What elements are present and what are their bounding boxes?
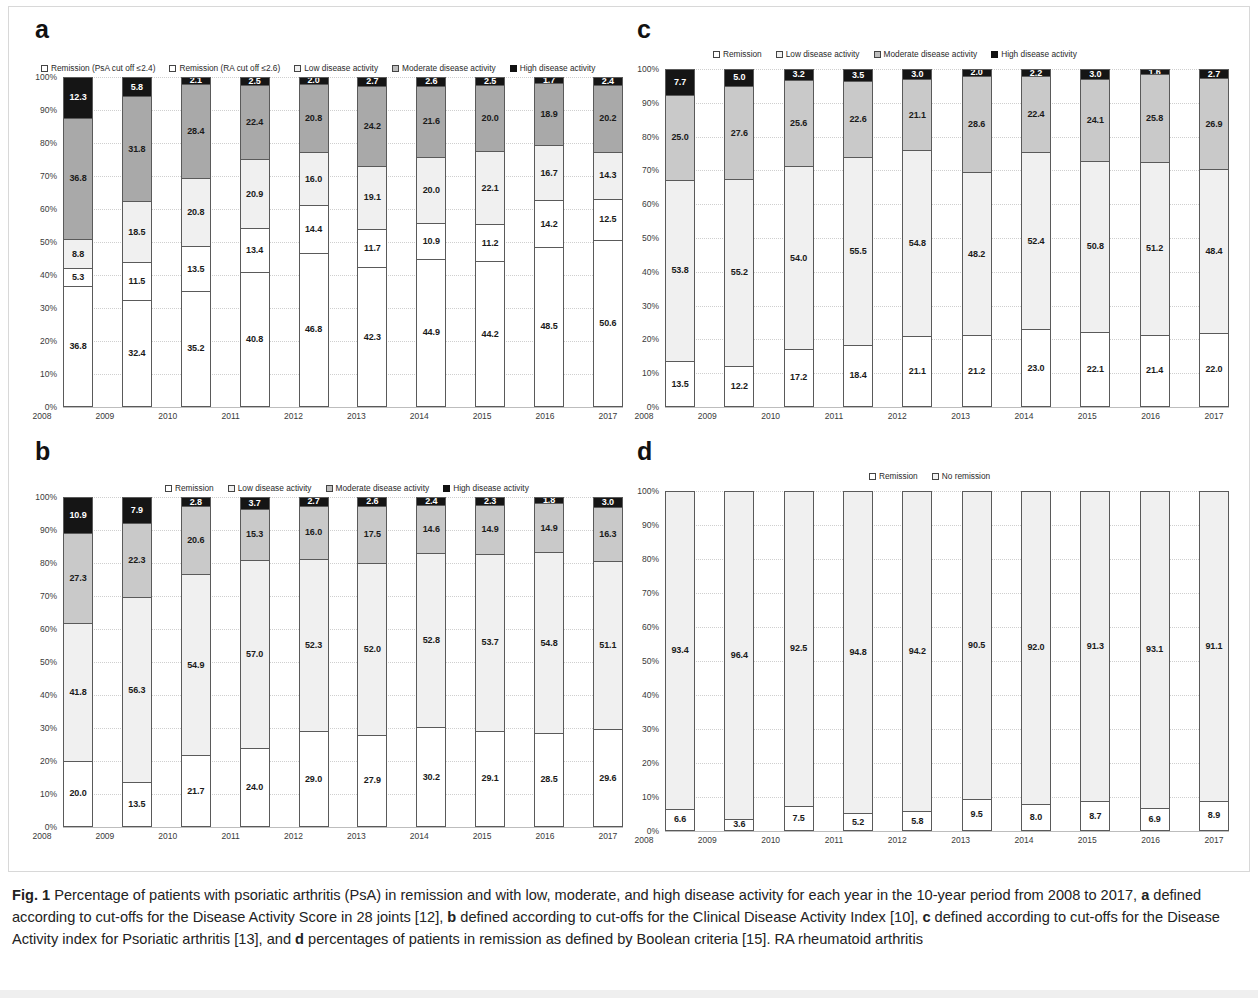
bar-segment[interactable]: 29.6 <box>594 729 622 827</box>
bar-segment[interactable]: 21.1 <box>903 336 931 407</box>
bar-segment[interactable]: 2.3 <box>476 497 504 505</box>
bar-segment[interactable]: 2.6 <box>358 497 386 506</box>
bar-segment[interactable]: 54.0 <box>785 166 813 349</box>
bar-segment[interactable]: 21.1 <box>903 79 931 150</box>
bar-segment[interactable]: 2.6 <box>417 77 445 86</box>
bar-column[interactable]: 91.18.9 <box>1199 491 1229 831</box>
bar-segment[interactable]: 44.9 <box>417 259 445 407</box>
bar-segment[interactable]: 14.9 <box>535 503 563 552</box>
bar-segment[interactable]: 29.0 <box>300 731 328 827</box>
bar-segment[interactable]: 2.7 <box>1200 69 1228 78</box>
bar-column[interactable]: 2.414.652.830.2 <box>416 497 446 827</box>
bar-segment[interactable]: 11.7 <box>358 229 386 268</box>
bar-column[interactable]: 2.420.214.312.550.6 <box>593 77 623 407</box>
bar-column[interactable]: 7.922.356.313.5 <box>122 497 152 827</box>
bar-segment[interactable]: 3.0 <box>1081 69 1109 79</box>
bar-column[interactable]: 96.43.6 <box>724 491 754 831</box>
stacked-bar[interactable]: 2.520.022.111.244.2 <box>475 77 505 407</box>
bar-segment[interactable]: 55.5 <box>844 157 872 345</box>
stacked-bar[interactable]: 2.726.948.422.0 <box>1199 69 1229 407</box>
bar-segment[interactable]: 11.5 <box>123 262 151 300</box>
stacked-bar[interactable]: 92.08.0 <box>1021 491 1051 831</box>
bar-segment[interactable]: 22.4 <box>241 85 269 159</box>
bar-segment[interactable]: 42.3 <box>358 267 386 407</box>
stacked-bar[interactable]: 2.522.420.913.440.8 <box>240 77 270 407</box>
bar-column[interactable]: 2.820.654.921.7 <box>181 497 211 827</box>
bar-segment[interactable]: 3.0 <box>594 497 622 507</box>
bar-segment[interactable]: 16.7 <box>535 145 563 200</box>
bar-segment[interactable]: 5.8 <box>123 77 151 96</box>
stacked-bar[interactable]: 93.16.9 <box>1140 491 1170 831</box>
bar-segment[interactable]: 5.2 <box>844 813 872 831</box>
bar-segment[interactable]: 14.6 <box>417 505 445 553</box>
bar-segment[interactable]: 12.5 <box>594 199 622 240</box>
stacked-bar[interactable]: 96.43.6 <box>724 491 754 831</box>
bar-segment[interactable]: 48.4 <box>1200 169 1228 333</box>
bar-segment[interactable]: 52.3 <box>300 559 328 732</box>
bar-segment[interactable]: 24.1 <box>1081 79 1109 160</box>
stacked-bar[interactable]: 91.18.9 <box>1199 491 1229 831</box>
stacked-bar[interactable]: 3.016.351.129.6 <box>593 497 623 827</box>
stacked-bar[interactable]: 3.522.655.518.4 <box>843 69 873 407</box>
bar-segment[interactable]: 35.2 <box>182 291 210 407</box>
bar-segment[interactable]: 51.2 <box>1141 162 1169 335</box>
bar-segment[interactable]: 16.0 <box>300 506 328 559</box>
bar-segment[interactable]: 2.7 <box>300 497 328 506</box>
bar-segment[interactable]: 22.0 <box>1200 333 1228 407</box>
bar-segment[interactable]: 92.5 <box>785 491 813 806</box>
bar-column[interactable]: 3.715.357.024.0 <box>240 497 270 827</box>
bar-segment[interactable]: 32.4 <box>123 300 151 407</box>
bar-segment[interactable]: 8.0 <box>1022 804 1050 831</box>
bar-segment[interactable]: 14.3 <box>594 152 622 199</box>
stacked-bar[interactable]: 1.814.954.828.5 <box>534 497 564 827</box>
bar-segment[interactable]: 6.9 <box>1141 808 1169 831</box>
bar-column[interactable]: 2.716.052.329.0 <box>299 497 329 827</box>
bar-segment[interactable]: 12.2 <box>725 366 753 407</box>
stacked-bar[interactable]: 92.57.5 <box>784 491 814 831</box>
bar-column[interactable]: 2.621.620.010.944.9 <box>416 77 446 407</box>
stacked-bar[interactable]: 12.336.88.85.336.8 <box>63 77 93 407</box>
bar-segment[interactable]: 22.1 <box>1081 332 1109 407</box>
bar-segment[interactable]: 31.8 <box>123 96 151 201</box>
bar-column[interactable]: 1.814.954.828.5 <box>534 497 564 827</box>
stacked-bar[interactable]: 5.831.818.511.532.4 <box>122 77 152 407</box>
bar-segment[interactable]: 57.0 <box>241 560 269 748</box>
stacked-bar[interactable]: 10.927.341.820.0 <box>63 497 93 827</box>
bar-segment[interactable]: 13.5 <box>123 782 151 827</box>
bar-segment[interactable]: 7.9 <box>123 497 151 523</box>
bar-column[interactable]: 3.021.154.821.1 <box>902 69 932 407</box>
bar-column[interactable]: 5.027.655.212.2 <box>724 69 754 407</box>
bar-column[interactable]: 94.25.8 <box>902 491 932 831</box>
bar-segment[interactable]: 20.0 <box>64 761 92 827</box>
stacked-bar[interactable]: 1.718.916.714.248.5 <box>534 77 564 407</box>
bar-segment[interactable]: 22.1 <box>476 151 504 224</box>
bar-segment[interactable]: 25.8 <box>1141 74 1169 161</box>
stacked-bar[interactable]: 3.715.357.024.0 <box>240 497 270 827</box>
bar-column[interactable]: 2.617.552.027.9 <box>357 497 387 827</box>
bar-column[interactable]: 3.522.655.518.4 <box>843 69 873 407</box>
bar-column[interactable]: 94.85.2 <box>843 491 873 831</box>
bar-segment[interactable]: 2.4 <box>417 497 445 505</box>
stacked-bar[interactable]: 7.725.053.813.5 <box>665 69 695 407</box>
stacked-bar[interactable]: 3.021.154.821.1 <box>902 69 932 407</box>
bar-segment[interactable]: 27.9 <box>358 735 386 827</box>
bar-segment[interactable]: 7.5 <box>785 806 813 832</box>
bar-segment[interactable]: 9.5 <box>963 799 991 831</box>
bar-segment[interactable]: 14.4 <box>300 205 328 253</box>
stacked-bar[interactable]: 93.46.6 <box>665 491 695 831</box>
bar-segment[interactable]: 23.0 <box>1022 329 1050 407</box>
bar-segment[interactable]: 13.5 <box>182 246 210 291</box>
bar-column[interactable]: 10.927.341.820.0 <box>63 497 93 827</box>
bar-segment[interactable]: 17.5 <box>358 506 386 564</box>
bar-segment[interactable]: 11.2 <box>476 224 504 261</box>
stacked-bar[interactable]: 2.028.648.221.2 <box>962 69 992 407</box>
bar-segment[interactable]: 25.0 <box>666 95 694 180</box>
bar-segment[interactable]: 94.8 <box>844 491 872 813</box>
stacked-bar[interactable]: 2.716.052.329.0 <box>299 497 329 827</box>
bar-segment[interactable]: 12.3 <box>64 77 92 118</box>
bar-segment[interactable]: 30.2 <box>417 727 445 827</box>
bar-column[interactable]: 93.16.9 <box>1140 491 1170 831</box>
bar-segment[interactable]: 13.5 <box>666 361 694 407</box>
bar-column[interactable]: 2.522.420.913.440.8 <box>240 77 270 407</box>
bar-column[interactable]: 2.128.420.813.535.2 <box>181 77 211 407</box>
